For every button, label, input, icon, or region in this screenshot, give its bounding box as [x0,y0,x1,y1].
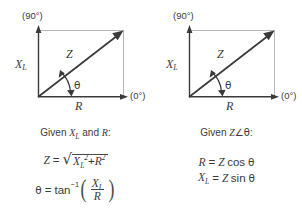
formula-theta-fraction: XL R [89,177,106,202]
formula-z-lhs: Z [43,154,49,166]
formula-z-radicand-a-exponent: 2 [84,153,88,162]
angle-symbol-icon: ∠ [235,127,244,138]
label-xl-right-subscript: L [173,63,177,72]
caption-right: Given Z∠θ: [151,127,302,138]
formula-z-radicand-b: R [95,155,102,167]
formula-xl-equals: = [212,171,219,186]
phasor-diagram-left: (90°) (0°) XL Z R θ [0,0,151,122]
label-r-left: R [75,100,82,112]
caption-left-prefix: Given [40,127,69,138]
formula-xl-function: sin [231,171,246,186]
formula-theta-function-exponent: −1 [71,180,80,189]
formula-xl-lhs-group: XL [198,170,209,186]
label-z-left: Z [66,48,73,60]
formula-theta-num-symbol: X [92,177,99,189]
formula-theta-function: tan [55,184,71,196]
axis-label-0-degrees-left: (0°) [130,91,145,101]
formula-z-magnitude: Z = √ XL2+R2 [0,152,151,167]
formula-xl-lhs: X [198,171,205,183]
formula-xl-argument: θ [249,171,255,186]
formula-xl-equals-z-sin-theta: XL = Z sin θ [151,170,302,186]
formula-theta-numerator: XL [89,177,106,189]
horizontal-axis [38,94,128,100]
formula-z-equals: = [53,154,60,166]
horizontal-axis [189,94,279,100]
formula-z-radicand: XL2+R2 [72,154,107,167]
label-xl-left: XL [15,55,27,72]
left-parenthesis-icon: ( [80,179,86,199]
label-xl-left-subscript: L [22,63,26,72]
formula-z-radicand-a-sub: L [80,161,84,170]
axis-label-90-degrees-left: (90°) [22,11,43,21]
impedance-vector-z [189,31,275,98]
figure-canvas: (90°) (0°) XL Z R θ Given XL and R: Z = … [0,0,302,220]
formula-r-argument: θ [248,155,254,170]
formula-theta-lhs: θ [35,184,41,196]
formula-z-plus: + [88,155,95,167]
formula-r-function: cos [227,155,245,170]
phasor-diagram-right: (90°) (0°) XL Z R θ [151,0,302,122]
formula-theta-arctan: θ = tan−1 ( XL R ) [0,177,151,202]
right-parenthesis-icon: ) [108,179,114,199]
caption-right-prefix: Given [200,127,229,138]
formula-r-lhs: R [199,155,206,170]
axis-label-90-degrees-right: (90°) [173,11,194,21]
formula-theta-equals: = [45,184,52,196]
caption-left-conjunction: and [80,127,102,138]
formula-theta-num-subscript: L [99,183,103,192]
axis-label-0-degrees-right: (0°) [281,91,296,101]
impedance-vector-z [38,31,124,98]
formula-xl-magnitude: Z [222,171,228,186]
caption-left-suffix: : [108,127,111,138]
formula-xl-lhs-subscript: L [205,177,209,186]
label-z-right: Z [217,48,224,60]
panel-given-z-angle-theta: (90°) (0°) XL Z R θ Given Z∠θ: R = Z cos… [151,0,302,220]
label-theta-left: θ [74,80,80,91]
label-theta-right: θ [225,80,231,91]
caption-right-suffix: : [250,127,253,138]
vertical-axis [36,25,42,97]
caption-left: Given XL and R: [0,127,151,141]
formula-r-equals-z-cos-theta: R = Z cos θ [151,155,302,170]
formula-r-equals: = [209,155,216,170]
formula-z-radical: √ XL2+R2 [63,152,108,167]
label-xl-right: XL [166,55,178,72]
panel-given-xl-and-r: (90°) (0°) XL Z R θ Given XL and R: Z = … [0,0,151,220]
radical-sign-icon: √ [63,152,73,167]
label-r-right: R [226,100,233,112]
formula-r-magnitude: Z [218,155,224,170]
formula-z-radicand-b-exponent: 2 [102,153,106,162]
vertical-axis [187,25,193,97]
